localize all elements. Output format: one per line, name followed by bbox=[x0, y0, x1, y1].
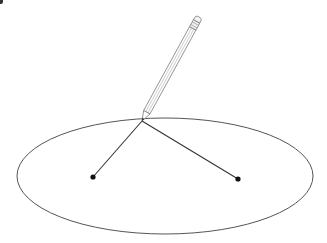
focus-right-pin bbox=[235, 176, 240, 181]
ellipse-string-diagram bbox=[0, 0, 327, 243]
focus-left-pin bbox=[90, 174, 95, 179]
string-to-right-focus bbox=[142, 121, 238, 179]
string-to-left-focus bbox=[93, 121, 142, 177]
pencil-facet-line bbox=[148, 29, 194, 113]
pencil-icon bbox=[142, 16, 201, 121]
pencil-facet-line bbox=[146, 28, 192, 112]
